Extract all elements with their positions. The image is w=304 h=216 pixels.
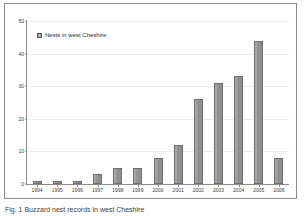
bar-slot: 2002	[188, 21, 208, 184]
y-tick-label: 50	[18, 19, 24, 24]
bar-slot: 2004	[229, 21, 249, 184]
x-tick-label: 2003	[213, 188, 224, 193]
y-tick-label: 40	[18, 51, 24, 56]
legend-square-icon	[37, 33, 42, 38]
x-tick-label: 1998	[112, 188, 123, 193]
bar-slot: 2006	[269, 21, 289, 184]
bar	[154, 158, 163, 184]
bar	[214, 83, 223, 184]
y-tick-label: 30	[18, 84, 24, 89]
plot-area: 01020304050 1994199519961997199819992000…	[26, 21, 289, 185]
bar-slot: 1995	[47, 21, 67, 184]
bar	[234, 76, 243, 184]
bar-series: 1994199519961997199819992000200120022003…	[27, 21, 289, 184]
x-tick-label: 1996	[72, 188, 83, 193]
bar	[113, 168, 122, 184]
x-tick-label: 2000	[152, 188, 163, 193]
bar-slot: 2001	[168, 21, 188, 184]
bar-slot: 2000	[148, 21, 168, 184]
x-tick-label: 1995	[52, 188, 63, 193]
bar	[93, 174, 102, 184]
x-tick-label: 1997	[92, 188, 103, 193]
y-tick-label: 10	[18, 149, 24, 154]
bar	[174, 145, 183, 184]
x-tick-label: 2005	[253, 188, 264, 193]
bar	[133, 168, 142, 184]
bar	[274, 158, 283, 184]
bar-slot: 1999	[128, 21, 148, 184]
bar-slot: 1997	[87, 21, 107, 184]
x-tick-label: 2001	[173, 188, 184, 193]
y-tick-label: 0	[21, 182, 24, 187]
x-tick-label: 1999	[132, 188, 143, 193]
figure-container: 01020304050 1994199519961997199819992000…	[0, 0, 304, 216]
bar-slot: 2003	[208, 21, 228, 184]
chart-legend: Nests in west Cheshire	[35, 31, 108, 39]
bar-slot: 1998	[108, 21, 128, 184]
bar-slot: 1994	[27, 21, 47, 184]
x-tick-label: 1994	[32, 188, 43, 193]
bar-slot: 2005	[249, 21, 269, 184]
x-tick-label: 2004	[233, 188, 244, 193]
bar-chart: 01020304050 1994199519961997199819992000…	[5, 4, 298, 200]
bar-slot: 1996	[67, 21, 87, 184]
legend-label: Nests in west Cheshire	[45, 32, 106, 38]
figure-frame: 01020304050 1994199519961997199819992000…	[4, 3, 297, 199]
figure-caption: Fig. 1 Buzzard nest records in west Ches…	[5, 205, 299, 216]
x-tick-label: 2002	[193, 188, 204, 193]
y-tick-label: 20	[18, 116, 24, 121]
x-tick-label: 2006	[273, 188, 284, 193]
bar	[254, 41, 263, 184]
bar	[194, 99, 203, 184]
